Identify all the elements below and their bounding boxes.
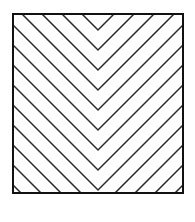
figure-canvas [0,0,195,222]
chevron-line [0,206,195,222]
chevron-square-figure [0,0,195,222]
square-fill [13,14,183,193]
chevron-line [0,0,195,10]
